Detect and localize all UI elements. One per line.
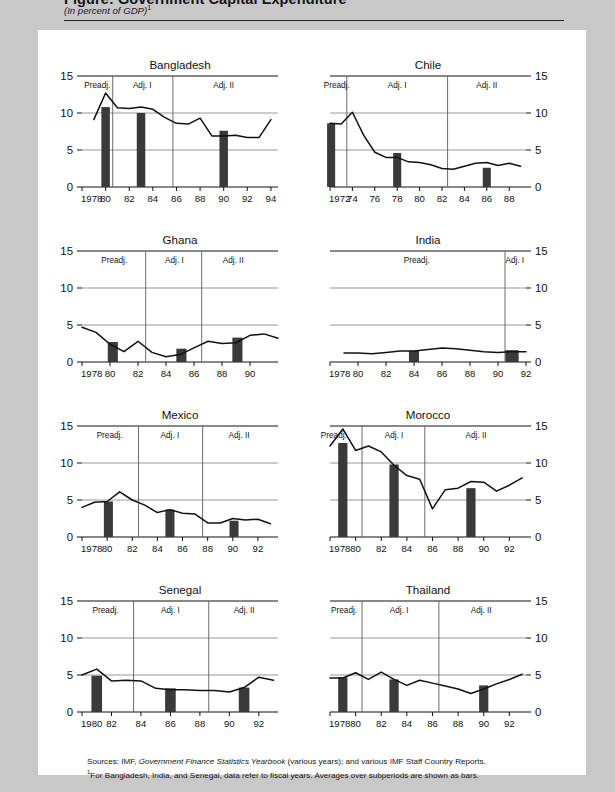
x-axis-tick-label: 1978 (329, 543, 350, 554)
x-axis-tick-label: 82 (381, 368, 392, 379)
phase-label: Preadj. (93, 606, 119, 615)
x-axis-tick-label: 88 (217, 368, 228, 379)
phase-label: Adj. I (165, 256, 184, 265)
y-axis-tick-label: 5 (535, 669, 541, 681)
x-axis-tick-label: 88 (453, 718, 464, 729)
x-axis-tick-label: 86 (481, 193, 492, 204)
x-axis-tick-label: 1978 (329, 368, 350, 379)
average-bar (389, 464, 398, 537)
x-axis-tick-label: 86 (427, 718, 438, 729)
x-axis-tick-label: 94 (266, 193, 277, 204)
chart-mexico: Mexico051015197880828486889092Preadj.Adj… (38, 398, 312, 573)
average-bar (104, 501, 113, 537)
chart-india: India051015197880828486889092Preadj.Adj.… (312, 223, 586, 398)
chart-panel: Bangladesh05101519788082848688909294Prea… (38, 30, 586, 775)
chart-title: Morocco (406, 408, 450, 421)
y-axis-tick-label: 15 (60, 595, 73, 607)
data-line (94, 93, 271, 137)
y-axis-tick-label: 5 (67, 319, 73, 331)
y-axis-tick-label: 5 (67, 144, 73, 156)
x-axis-tick-label: 1978 (81, 543, 102, 554)
average-bar (101, 107, 110, 187)
sources-line: Sources: IMF, Government Finance Statist… (87, 756, 577, 767)
x-axis-tick-label: 82 (376, 718, 387, 729)
x-axis-tick-label: 84 (402, 543, 413, 554)
x-axis-tick-label: 80 (102, 543, 113, 554)
x-axis-tick-label: 82 (124, 193, 135, 204)
x-axis-tick-label: 82 (127, 543, 138, 554)
y-axis-tick-label: 10 (535, 632, 548, 644)
x-axis-tick-label: 90 (227, 543, 238, 554)
footnote-text: For Bangladesh, India, and Senegal, data… (90, 771, 479, 780)
header-rule (64, 20, 564, 21)
y-axis-tick-label: 0 (67, 531, 73, 543)
y-axis-tick-label: 0 (535, 356, 541, 368)
x-axis-tick-label: 84 (402, 718, 413, 729)
phase-label: Adj. II (223, 256, 244, 265)
x-axis-tick-label: 76 (369, 193, 380, 204)
average-bar (483, 168, 491, 187)
sources-label: Sources: (87, 757, 119, 766)
x-axis-tick-label: 90 (224, 718, 235, 729)
data-line (330, 429, 522, 509)
phase-label: Adj. I (390, 606, 409, 615)
figure-notes: Sources: IMF, Government Finance Statist… (87, 756, 577, 781)
average-bar (165, 510, 174, 537)
y-axis-tick-label: 10 (60, 282, 73, 294)
chart-bangladesh: Bangladesh05101519788082848688909294Prea… (38, 48, 312, 223)
x-axis-tick-label: 90 (493, 368, 504, 379)
x-axis-tick-label: 78 (392, 193, 403, 204)
average-bar (466, 488, 475, 537)
x-axis-tick-label: 88 (465, 368, 476, 379)
x-axis-tick-label: 82 (376, 543, 387, 554)
y-axis-tick-label: 0 (67, 181, 73, 193)
x-axis-tick-label: 88 (195, 718, 206, 729)
phase-label: Adj. I (161, 431, 180, 440)
sources-journal-title: Government Finance Statistics Yearbook (139, 757, 286, 766)
phase-label: Preadj. (404, 256, 430, 265)
x-axis-tick-label: 90 (218, 193, 229, 204)
phase-label: Preadj. (101, 256, 127, 265)
x-axis-tick-label: 80 (414, 193, 425, 204)
y-axis-tick-label: 15 (60, 245, 73, 257)
phase-label: Adj. II (471, 606, 492, 615)
x-axis-tick-label: 88 (453, 543, 464, 554)
x-axis-tick-label: 92 (504, 543, 515, 554)
phase-label: Adj. I (505, 256, 524, 265)
phase-label: Preadj. (97, 431, 123, 440)
chart-title: Senegal (159, 583, 202, 596)
x-axis-tick-label: 80 (350, 718, 361, 729)
phase-label: Adj. II (229, 431, 250, 440)
x-axis-tick-label: 88 (195, 193, 206, 204)
x-axis-tick-label: 86 (437, 368, 448, 379)
phase-label: Adj. I (161, 606, 180, 615)
data-line (344, 348, 526, 354)
x-axis-tick-label: 84 (136, 718, 147, 729)
x-axis-tick-label: 92 (504, 718, 515, 729)
average-bar (327, 123, 335, 187)
chart-title: Bangladesh (149, 58, 210, 71)
average-bar (239, 688, 250, 712)
x-axis-tick-label: 1978 (329, 718, 350, 729)
average-bar (338, 443, 347, 537)
y-axis-tick-label: 15 (535, 420, 548, 432)
x-axis-tick-label: 84 (459, 193, 470, 204)
y-axis-tick-label: 15 (535, 245, 548, 257)
x-axis-tick-label: 90 (245, 368, 256, 379)
average-bar (91, 676, 102, 712)
y-axis-tick-label: 10 (60, 457, 73, 469)
y-axis-tick-label: 15 (535, 70, 548, 82)
x-axis-tick-label: 80 (100, 193, 111, 204)
y-axis-tick-label: 5 (67, 669, 73, 681)
phase-label: Adj. II (476, 81, 497, 90)
figure-subtitle: (In percent of GDP)1 (64, 4, 151, 16)
y-axis-tick-label: 10 (535, 107, 548, 119)
sources-text: IMF, Government Finance Statistics Yearb… (121, 757, 486, 766)
y-axis-tick-label: 0 (535, 531, 541, 543)
figure-subtitle-text: (In percent of GDP) (64, 5, 147, 16)
x-axis-tick-label: 86 (427, 543, 438, 554)
phase-label: Preadj. (321, 431, 347, 440)
x-axis-tick-label: 92 (254, 718, 265, 729)
x-axis-tick-label: 84 (161, 368, 172, 379)
y-axis-tick-label: 15 (60, 70, 73, 82)
